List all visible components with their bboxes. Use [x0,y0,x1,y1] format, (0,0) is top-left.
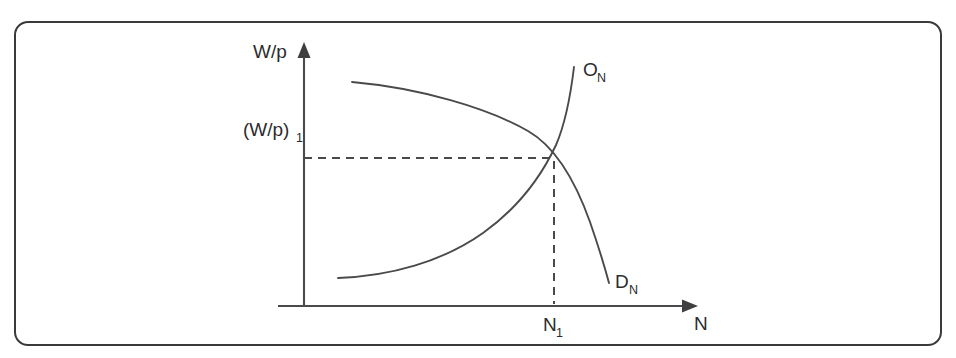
supply-curve-label-subscript: N [597,71,606,85]
equilibrium-employment-label: N [543,314,557,335]
demand-curve-path [352,82,609,283]
demand-curve-label: D [615,271,629,292]
labour-market-chart: W/p N O N D N (W/p) 1 N 1 [0,0,956,358]
figure-root: W/p N O N D N (W/p) 1 N 1 [0,0,956,358]
equilibrium-wage-label-subscript: 1 [296,131,303,145]
x-axis-label: N [694,313,708,334]
equilibrium-wage-label: (W/p) [243,119,289,140]
y-axis-label: W/p [253,41,287,62]
supply-curve-label: O [583,59,598,80]
y-axis-arrow-icon [298,42,311,58]
equilibrium-employment-label-subscript: 1 [556,326,563,340]
x-axis-arrow-icon [682,300,698,313]
demand-curve-label-subscript: N [629,283,638,297]
supply-curve-path [338,67,574,278]
